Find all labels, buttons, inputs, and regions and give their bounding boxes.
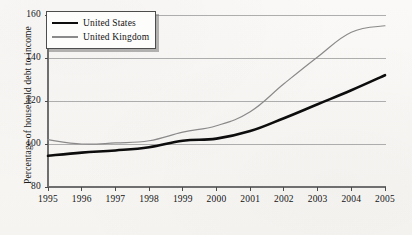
y-axis-label-160: 160 (15, 9, 41, 19)
y-axis-label-140: 140 (15, 52, 41, 62)
legend-swatch-united-states-icon (52, 22, 78, 25)
y-axis-label-80: 80 (15, 181, 41, 191)
legend-entry-united-states: United States (52, 16, 150, 30)
legend-swatch-united-kingdom-icon (52, 36, 78, 37)
legend-label-united-kingdom: United Kingdom (83, 32, 149, 42)
x-axis-label-2005: 2005 (365, 194, 405, 204)
y-axis-label-120: 120 (15, 95, 41, 105)
y-axis-title: Percentage of household debt to income (23, 5, 33, 205)
y-axis-label-100: 100 (15, 138, 41, 148)
legend-label-united-states: United States (83, 18, 136, 28)
legend-entry-united-kingdom: United Kingdom (52, 30, 150, 44)
chart-legend: United States United Kingdom (46, 11, 156, 49)
line-chart-figure: Percentage of household debt to income 8… (0, 0, 412, 235)
